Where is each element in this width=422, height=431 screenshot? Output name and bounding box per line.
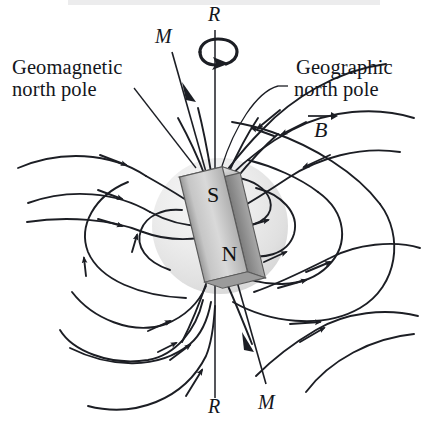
rotation-axis-label-top: R: [208, 4, 220, 26]
geographic-pole-label-line1: Geographic: [296, 56, 393, 78]
magnet-south-label: S: [207, 182, 219, 207]
field-line-arrow: [100, 155, 126, 165]
field-line-arrow: [148, 321, 170, 331]
field-line-arrow: [282, 122, 306, 134]
spin-arrow-icon-tail: [200, 52, 216, 65]
field-line-arrow: [304, 155, 330, 167]
field-line-arrow: [158, 343, 176, 352]
field-line-arrow: [290, 322, 320, 324]
magnetic-axis-label-bottom: M: [258, 392, 275, 414]
figure-canvas: S N Geomagnetic north pole Geographic no…: [0, 0, 422, 431]
field-line: [72, 286, 206, 328]
magnet-north-label: N: [221, 241, 237, 266]
field-line-arrow: [132, 235, 137, 252]
field-line: [306, 334, 414, 392]
rotation-axis-label-bottom: R: [208, 396, 220, 418]
field-line-arrow: [258, 110, 280, 128]
field-line-arrow: [84, 258, 86, 276]
geographic-pole-label-line2: north pole: [294, 78, 379, 100]
geomagnetic-pole-label-line2: north pole: [12, 78, 97, 100]
field-line: [18, 156, 146, 176]
field-line-arrow: [170, 345, 190, 360]
geomagnetic-pole-label-line1: Geomagnetic: [12, 56, 122, 78]
field-line-arrow: [300, 328, 324, 342]
field-line: [256, 312, 418, 376]
field-vector-label: B: [314, 118, 327, 142]
field-line: [28, 194, 150, 212]
field-line-arrow: [98, 219, 122, 226]
magnetic-axis-label-top: M: [155, 26, 172, 48]
